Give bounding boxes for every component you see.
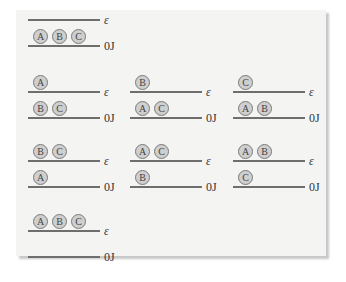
particle-a: A	[135, 101, 150, 116]
upper-level-particles: A	[33, 75, 48, 90]
upper-level-label: ε	[104, 155, 109, 167]
particle-a: A	[135, 144, 150, 159]
upper-level-label: ε	[104, 86, 109, 98]
upper-level-label: ε	[206, 86, 211, 98]
particle-c: C	[154, 101, 169, 116]
particle-a: A	[33, 75, 48, 90]
upper-level-line	[28, 160, 100, 162]
lower-level-line	[28, 117, 100, 119]
upper-level-line	[233, 91, 305, 93]
particle-a: A	[238, 144, 253, 159]
upper-level-line	[28, 230, 100, 232]
lower-level-line	[233, 186, 305, 188]
particle-c: C	[52, 101, 67, 116]
particle-c: C	[238, 170, 253, 185]
lower-level-line	[130, 117, 202, 119]
particle-c: C	[238, 75, 253, 90]
lower-level-line	[233, 117, 305, 119]
lower-level-particles: C	[238, 170, 253, 185]
upper-level-line	[130, 91, 202, 93]
upper-level-label: ε	[206, 155, 211, 167]
upper-level-label: ε	[104, 225, 109, 237]
lower-level-particles: AB	[238, 101, 272, 116]
upper-level-line	[28, 91, 100, 93]
particle-c: C	[52, 144, 67, 159]
particle-b: B	[33, 144, 48, 159]
upper-level-label: ε	[309, 155, 314, 167]
particle-b: B	[52, 214, 67, 229]
lower-level-label: 0J	[309, 112, 320, 124]
particle-a: A	[33, 170, 48, 185]
lower-level-line	[28, 186, 100, 188]
particle-b: B	[135, 75, 150, 90]
lower-level-label: 0J	[206, 181, 217, 193]
particle-b: B	[257, 101, 272, 116]
lower-level-label: 0J	[206, 112, 217, 124]
particle-b: B	[135, 170, 150, 185]
lower-level-particles: BC	[33, 101, 67, 116]
upper-level-particles: BC	[33, 144, 67, 159]
lower-level-label: 0J	[309, 181, 320, 193]
lower-level-line	[28, 256, 100, 258]
lower-level-line	[28, 45, 100, 47]
upper-level-particles: AC	[135, 144, 169, 159]
lower-level-particles: A	[33, 170, 48, 185]
particle-b: B	[33, 101, 48, 116]
lower-level-label: 0J	[104, 112, 115, 124]
upper-level-particles: AB	[238, 144, 272, 159]
lower-level-label: 0J	[104, 40, 115, 52]
particle-a: A	[33, 29, 48, 44]
particle-b: B	[52, 29, 67, 44]
upper-level-line	[233, 160, 305, 162]
lower-level-label: 0J	[104, 181, 115, 193]
particle-c: C	[154, 144, 169, 159]
lower-level-particles: AC	[135, 101, 169, 116]
particle-a: A	[238, 101, 253, 116]
upper-level-label: ε	[104, 14, 109, 26]
lower-level-label: 0J	[104, 251, 115, 263]
upper-level-label: ε	[309, 86, 314, 98]
lower-level-particles: B	[135, 170, 150, 185]
particle-c: C	[71, 29, 86, 44]
particle-b: B	[257, 144, 272, 159]
lower-level-particles: ABC	[33, 29, 86, 44]
upper-level-particles: ABC	[33, 214, 86, 229]
upper-level-particles: C	[238, 75, 253, 90]
upper-level-line	[130, 160, 202, 162]
particle-c: C	[71, 214, 86, 229]
upper-level-line	[28, 19, 100, 21]
lower-level-line	[130, 186, 202, 188]
particle-a: A	[33, 214, 48, 229]
upper-level-particles: B	[135, 75, 150, 90]
